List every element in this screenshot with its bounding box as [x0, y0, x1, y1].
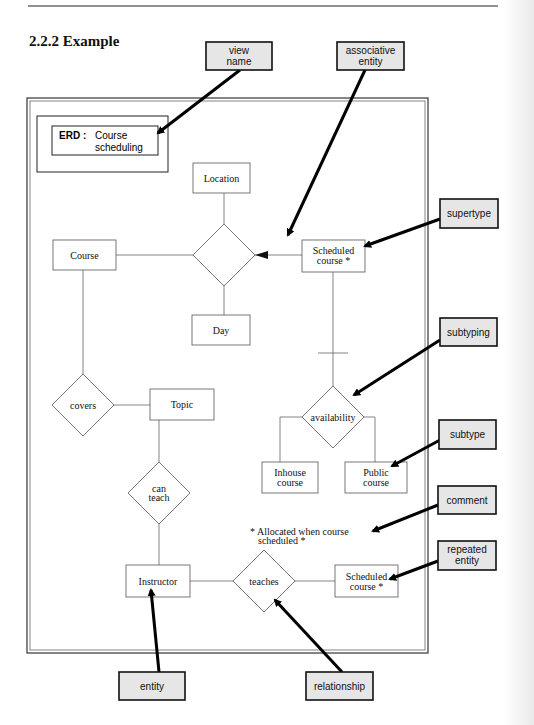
entity-day[interactable]: Day [192, 315, 250, 345]
view-name-line2: scheduling [95, 142, 143, 153]
callout-relationship: relationship [306, 672, 373, 700]
erd-diagram: 2.2.2 Example ERD : Course scheduling Lo… [0, 0, 534, 725]
svg-text:relationship: relationship [314, 681, 366, 692]
svg-text:Instructor: Instructor [139, 576, 179, 587]
callout-associative-entity: associative entity [337, 42, 404, 70]
diagram-comment: * Allocated when course scheduled * [250, 526, 349, 546]
relationship-covers[interactable]: covers [52, 374, 114, 436]
svg-text:course: course [363, 477, 390, 488]
svg-text:scheduled *: scheduled * [258, 535, 306, 546]
svg-text:associative: associative [346, 45, 396, 56]
callout-subtype: subtype [439, 420, 496, 449]
svg-text:subtype: subtype [450, 429, 485, 440]
svg-text:Topic: Topic [171, 399, 194, 410]
svg-text:Course: Course [70, 250, 99, 261]
callout-supertype: supertype [440, 199, 498, 228]
erd-label: ERD : [59, 130, 86, 141]
svg-text:entity: entity [140, 681, 164, 692]
entity-public-course[interactable]: Public course [345, 462, 407, 493]
svg-text:supertype: supertype [447, 208, 491, 219]
svg-text:entity: entity [455, 555, 479, 566]
view-name-frame: ERD : Course scheduling [37, 116, 168, 172]
svg-text:comment: comment [446, 495, 487, 506]
relationship-can-teach[interactable]: can teach [128, 462, 190, 524]
view-name-line1: Course [95, 130, 128, 141]
callout-comment: comment [438, 486, 496, 514]
entity-topic[interactable]: Topic [150, 389, 214, 420]
callout-repeated-entity: repeated entity [438, 541, 496, 570]
relationship-associative[interactable] [193, 224, 255, 286]
svg-text:view: view [229, 45, 250, 56]
entity-inhouse-course[interactable]: Inhouse course [262, 462, 318, 493]
entity-scheduled-course-supertype[interactable]: Scheduled course * [302, 240, 365, 272]
section-title: 2.2.2 Example [29, 33, 120, 49]
svg-text:subtyping: subtyping [447, 327, 490, 338]
svg-text:covers: covers [70, 400, 96, 411]
entity-course[interactable]: Course [53, 240, 116, 270]
svg-text:course *: course * [317, 255, 351, 266]
callout-view-name: view name [206, 42, 272, 70]
svg-text:Day: Day [213, 325, 230, 336]
svg-text:entity: entity [359, 56, 383, 67]
callout-subtyping: subtyping [440, 318, 497, 346]
relationship-teaches[interactable]: teaches [233, 550, 295, 612]
entity-instructor[interactable]: Instructor [126, 565, 190, 597]
callout-entity: entity [119, 672, 185, 700]
svg-text:name: name [226, 56, 251, 67]
svg-text:course: course [277, 477, 304, 488]
svg-text:availability: availability [311, 412, 356, 423]
svg-text:course *: course * [350, 581, 384, 592]
svg-text:repeated: repeated [447, 544, 486, 555]
svg-text:Location: Location [204, 173, 240, 184]
entity-scheduled-course-repeated[interactable]: Scheduled course * [335, 565, 398, 597]
entity-location[interactable]: Location [193, 163, 250, 193]
svg-text:teaches: teaches [249, 576, 279, 587]
svg-text:teach: teach [148, 492, 169, 503]
